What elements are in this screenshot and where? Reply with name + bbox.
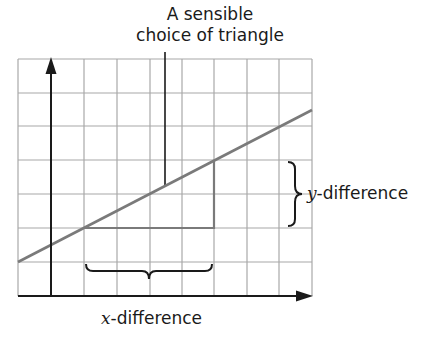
x-difference-brace-icon	[86, 264, 212, 279]
y-difference-label: y-difference	[307, 183, 408, 203]
x-suffix: -difference	[111, 308, 202, 328]
y-suffix: -difference	[317, 183, 408, 203]
x-variable: x	[101, 308, 111, 328]
gradient-diagram	[0, 0, 434, 350]
x-axis-arrow-icon	[296, 291, 313, 302]
x-difference-label: x-difference	[101, 308, 202, 328]
y-variable: y	[307, 183, 317, 203]
